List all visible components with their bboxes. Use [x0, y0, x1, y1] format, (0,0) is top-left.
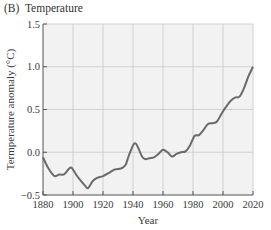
y-tick-label: 1.0: [27, 61, 40, 72]
x-tick-label: 1940: [123, 199, 144, 210]
x-tick-label: 1960: [153, 199, 174, 210]
temperature-chart: −0.50.00.51.01.5 18801900192019401960198…: [0, 0, 271, 230]
y-tick-label: 0.0: [27, 147, 40, 158]
x-axis-label: Year: [138, 214, 159, 226]
x-tick-label: 1880: [33, 199, 54, 210]
y-tick-label: 0.5: [27, 104, 40, 115]
y-tick-label: 1.5: [27, 19, 40, 30]
y-axis-label: Termperature anomaly (°C): [4, 48, 17, 170]
x-tick-label: 2000: [213, 199, 234, 210]
x-tick-label: 1980: [183, 199, 204, 210]
x-tick-label: 2020: [243, 199, 264, 210]
x-tick-label: 1900: [63, 199, 84, 210]
x-tick-label: 1920: [93, 199, 114, 210]
